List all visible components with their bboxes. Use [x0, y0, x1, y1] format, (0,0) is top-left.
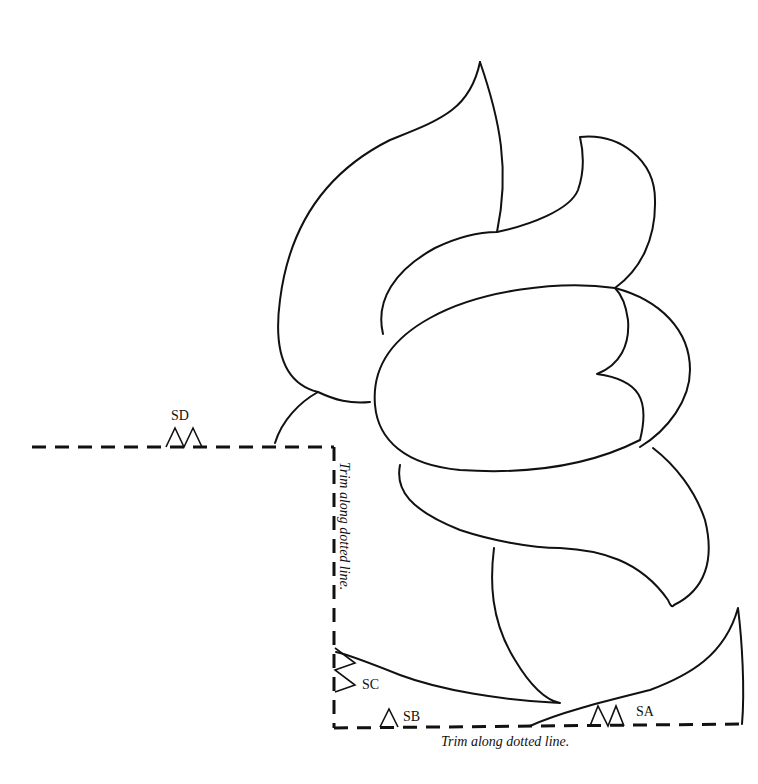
- notch-sd: SD: [166, 408, 202, 447]
- notch-sa-label: SA: [636, 704, 655, 719]
- stem-left: [275, 392, 318, 443]
- bloom-center: [375, 285, 644, 471]
- notch-sb-icon: [380, 709, 398, 727]
- notch-sc-icon: [335, 648, 355, 692]
- notch-sc-label: SC: [362, 677, 379, 692]
- trim-instruction-bottom: Trim along dotted line.: [441, 734, 569, 749]
- notch-sb: SB: [380, 709, 420, 727]
- trim-line: [32, 447, 743, 728]
- notch-sa-icon: [590, 706, 624, 726]
- notch-sd-icon: [166, 428, 202, 447]
- notch-sd-label: SD: [171, 408, 189, 423]
- petal-lower-curl: [399, 448, 709, 606]
- notch-sb-label: SB: [403, 709, 420, 724]
- petal-upper-curl: [381, 137, 655, 334]
- petal-top-left-inner-edge: [480, 62, 503, 232]
- pattern-canvas: SD SC SB SA Trim along dotted line. Trim…: [0, 0, 758, 784]
- trim-instruction-vertical: Trim along dotted line.: [337, 462, 352, 590]
- trim-line-bottom: [334, 724, 743, 728]
- notch-sc: SC: [335, 648, 379, 692]
- notch-sa: SA: [590, 704, 655, 726]
- petal-top-left: [278, 62, 480, 403]
